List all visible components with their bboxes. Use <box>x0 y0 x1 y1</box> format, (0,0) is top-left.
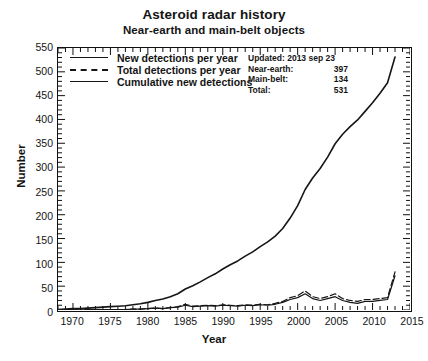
y-tick-550: 550 <box>0 41 53 53</box>
chart-title: Asteroid radar history <box>0 7 428 22</box>
legend-line-sample-icon <box>70 53 108 62</box>
legend-line-sample-icon <box>70 65 108 74</box>
y-tick-200: 200 <box>0 210 53 222</box>
y-tick-150: 150 <box>0 234 53 246</box>
info-value: 397 <box>306 64 348 75</box>
chart-subtitle: Near-earth and main-belt objects <box>0 24 428 36</box>
y-tick-250: 250 <box>0 186 53 198</box>
info-row-2: Main-belt:134 <box>248 74 348 85</box>
y-tick-450: 450 <box>0 89 53 101</box>
chart-figure: Asteroid radar history Near-earth and ma… <box>0 0 428 361</box>
legend-label: Cumulative new detections <box>117 76 252 88</box>
legend-item-1: New detections per year <box>70 52 252 63</box>
info-annotation-block: Updated: 2013 sep 23 Near-earth:397Main-… <box>248 53 348 95</box>
info-key: Near-earth: <box>248 64 306 75</box>
y-tick-350: 350 <box>0 137 53 149</box>
y-tick-50: 50 <box>0 282 53 294</box>
chart-legend: New detections per yearTotal detections … <box>70 52 252 88</box>
info-value: 531 <box>306 85 348 96</box>
legend-label: New detections per year <box>117 52 238 64</box>
y-tick-300: 300 <box>0 161 53 173</box>
x-tick-2015: 2015 <box>382 315 428 327</box>
x-axis-label: Year <box>0 333 428 345</box>
legend-label: Total detections per year <box>117 64 241 76</box>
info-rows: Near-earth:397Main-belt:134Total:531 <box>248 64 348 96</box>
info-key: Main-belt: <box>248 74 306 85</box>
legend-line-sample-icon <box>70 77 108 86</box>
info-key: Total: <box>248 85 306 96</box>
y-tick-500: 500 <box>0 65 53 77</box>
legend-item-2: Total detections per year <box>70 64 252 75</box>
info-updated: Updated: 2013 sep 23 <box>248 53 348 64</box>
info-row-1: Near-earth:397 <box>248 64 348 75</box>
series-line-2 <box>58 272 395 310</box>
info-row-3: Total:531 <box>248 85 348 96</box>
info-value: 134 <box>306 74 348 85</box>
legend-item-3: Cumulative new detections <box>70 76 252 87</box>
series-line-1 <box>58 276 395 310</box>
y-tick-100: 100 <box>0 258 53 270</box>
y-tick-400: 400 <box>0 113 53 125</box>
